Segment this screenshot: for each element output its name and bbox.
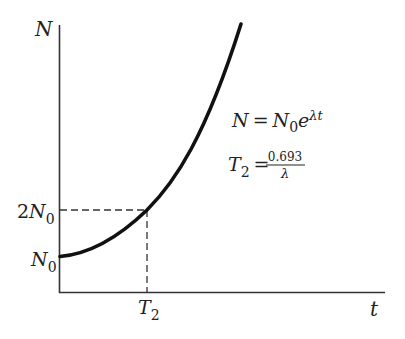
growth-eq-sign: = [253, 109, 269, 131]
growth-rhs-exponent: λt [308, 108, 323, 123]
growth-equation: N=N0eλt [231, 108, 324, 135]
y-tick-2n0-prefix: 2 [17, 200, 29, 222]
exponential-growth-chart: N t 2N0 N0 T2 N=N0eλt T2= 0.693 λ [0, 0, 405, 339]
y-tick-2n0-main: N [28, 200, 47, 222]
x-tick-t2: T2 [138, 296, 160, 323]
growth-rhs-main: N [272, 109, 291, 131]
exponential-curve [60, 24, 241, 257]
y-tick-n0-main: N [30, 248, 49, 270]
y-tick-n0-sub: 0 [48, 259, 57, 275]
x-tick-t2-sub: 2 [151, 307, 160, 323]
doubling-denominator: λ [280, 166, 289, 181]
growth-rhs-sub: 0 [289, 119, 298, 135]
y-axis-label: N [34, 17, 54, 41]
growth-rhs-base: e [298, 109, 309, 131]
y-tick-2n0: 2N0 [17, 200, 55, 227]
y-tick-2n0-sub: 0 [46, 211, 55, 227]
doubling-lhs-sub: 2 [241, 164, 250, 180]
x-axis-label: t [370, 297, 379, 321]
y-tick-n0: N0 [30, 248, 57, 275]
growth-lhs: N [231, 109, 250, 131]
doubling-numerator: 0.693 [268, 150, 302, 164]
doubling-lhs: T2= [228, 153, 270, 180]
